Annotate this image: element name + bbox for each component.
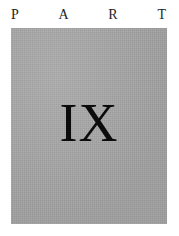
part-letter-t: T [157,8,166,22]
part-letter-r: R [108,8,117,22]
part-title-page: P A R T IX [0,0,179,236]
part-number-numeral: IX [11,96,167,150]
part-letter-a: A [59,8,69,22]
gray-panel: IX [11,28,167,224]
part-heading: P A R T [11,6,166,24]
part-letter-p: P [11,8,19,22]
